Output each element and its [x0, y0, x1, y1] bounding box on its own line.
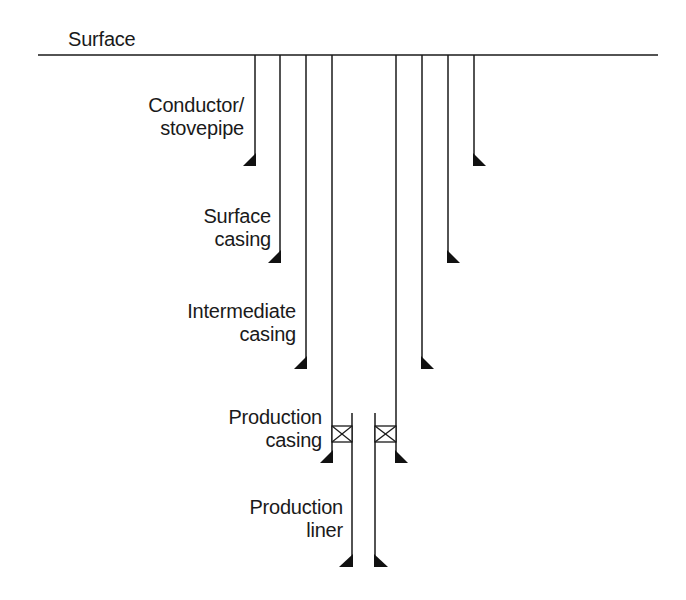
- packer-right-icon: [375, 426, 396, 442]
- production-liner-label-line-2: liner: [249, 519, 343, 542]
- intermediate-casing-right-shoe-icon: [421, 356, 434, 369]
- surface-casing-left-shoe-icon: [268, 250, 281, 263]
- surface-casing-label-line-2: casing: [203, 228, 271, 251]
- production-liner-label: Production liner: [249, 496, 343, 542]
- production-casing-label-line-1: Production: [228, 406, 322, 429]
- packer-left-icon: [332, 426, 352, 442]
- production-liner-label-line-1: Production: [249, 496, 343, 519]
- production-liner-right-shoe-icon: [374, 554, 388, 567]
- conductor-label-line-2: stovepipe: [148, 117, 244, 140]
- surface-casing-right-shoe-icon: [447, 250, 460, 263]
- intermediate-casing-left-shoe-icon: [294, 356, 307, 369]
- production-casing-label: Production casing: [228, 406, 322, 452]
- conductor-label: Conductor/ stovepipe: [148, 94, 244, 140]
- production-casing-label-line-2: casing: [228, 429, 322, 452]
- intermediate-casing-label-line-2: casing: [187, 323, 296, 346]
- casing-diagram: [0, 0, 686, 600]
- production-casing-right-shoe-icon: [395, 450, 408, 463]
- conductor-left-shoe-icon: [243, 153, 256, 166]
- surface-label: Surface: [68, 28, 136, 51]
- intermediate-casing-label: Intermediate casing: [187, 300, 296, 346]
- production-liner-left-shoe-icon: [339, 554, 353, 567]
- conductor-right-shoe-icon: [473, 153, 486, 166]
- surface-casing-label: Surface casing: [203, 205, 271, 251]
- surface-casing-label-line-1: Surface: [203, 205, 271, 228]
- conductor-label-line-1: Conductor/: [148, 94, 244, 117]
- intermediate-casing-label-line-1: Intermediate: [187, 300, 296, 323]
